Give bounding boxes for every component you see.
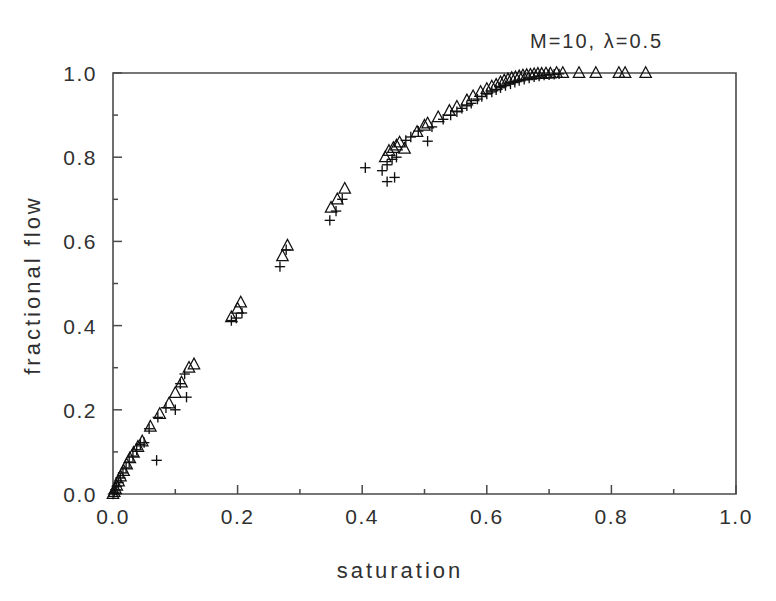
data-point-triangle	[332, 193, 343, 204]
data-points-layer	[107, 67, 651, 499]
data-point-triangle	[145, 420, 156, 431]
series-plus-series	[108, 69, 564, 500]
ticks-layer	[113, 73, 736, 494]
data-point-triangle	[590, 67, 601, 78]
y-axis-label: fractional flow	[20, 195, 45, 375]
plot-frame	[113, 73, 736, 494]
data-point-triangle	[176, 376, 187, 387]
data-point-triangle	[163, 397, 174, 408]
data-point-triangle	[573, 67, 584, 78]
x-tick-label: 0.0	[96, 505, 130, 528]
x-axis-label: saturation	[337, 558, 464, 583]
data-point-triangle	[640, 67, 651, 78]
axes-layer	[113, 73, 736, 494]
x-tick-label: 1.0	[719, 505, 753, 528]
data-point-triangle	[433, 111, 444, 122]
y-tick-label: 0.0	[63, 483, 97, 506]
series-triangle-series	[107, 67, 651, 499]
x-tick-label: 0.6	[470, 505, 504, 528]
data-point-triangle	[170, 387, 181, 398]
x-tick-label: 0.2	[221, 505, 255, 528]
data-point-triangle	[339, 183, 350, 194]
y-tick-label: 0.8	[63, 146, 97, 169]
scatter-plot: 0.00.20.40.60.81.00.00.20.40.60.81.0 M=1…	[0, 0, 776, 601]
y-tick-label: 0.6	[63, 230, 97, 253]
figure-container: 0.00.20.40.60.81.00.00.20.40.60.81.0 M=1…	[0, 0, 776, 601]
y-tick-label: 1.0	[63, 62, 97, 85]
x-tick-label: 0.4	[345, 505, 379, 528]
plot-title: M=10, λ=0.5	[530, 30, 663, 52]
y-tick-label: 0.2	[63, 399, 97, 422]
data-point-triangle	[282, 239, 293, 250]
x-tick-label: 0.8	[595, 505, 629, 528]
tick-labels-layer: 0.00.20.40.60.81.00.00.20.40.60.81.0	[63, 62, 753, 528]
y-tick-label: 0.4	[63, 315, 97, 338]
